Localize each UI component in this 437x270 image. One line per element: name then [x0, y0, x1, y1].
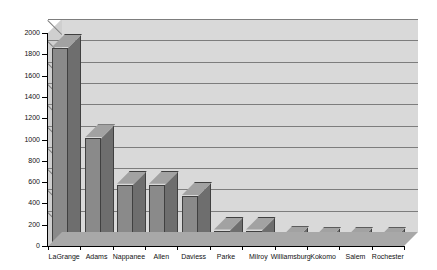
x-tick-4: [177, 246, 178, 250]
y-tick-label-1800: 1800: [2, 50, 40, 58]
x-tick-label-allen: Allen: [153, 252, 169, 261]
bar-front-face: [85, 138, 101, 246]
y-tick-200: [42, 225, 47, 226]
y-tick-label-400: 400: [2, 199, 40, 207]
bar-side-face: [68, 35, 81, 233]
gridline-2000: [62, 19, 418, 20]
x-tick-6: [242, 246, 243, 250]
gridline-400: [62, 189, 418, 190]
x-tick-2: [113, 246, 114, 250]
y-tick-label-200: 200: [2, 221, 40, 229]
y-tick-1200: [42, 118, 47, 119]
gridline-1400: [62, 83, 418, 84]
y-tick-800: [42, 161, 47, 162]
bar-front-face: [52, 48, 68, 246]
bar-side-face: [101, 125, 114, 233]
y-tick-400: [42, 203, 47, 204]
x-tick-label-salem: Salem: [346, 252, 366, 261]
x-tick-label-kokomo: Kokomo: [310, 252, 336, 261]
bar-lagrange: [52, 34, 68, 246]
y-tick-label-0: 0: [2, 242, 40, 250]
y-tick-label-1000: 1000: [2, 136, 40, 144]
bar-chart: 0200400600800100012001400160018002000 La…: [0, 0, 437, 270]
x-tick-label-parke: Parke: [217, 252, 235, 261]
gridline-1600: [62, 62, 418, 63]
y-tick-1600: [42, 76, 47, 77]
y-axis-line: [47, 33, 48, 247]
gridline-1800: [62, 40, 418, 41]
bar-adams: [85, 124, 101, 246]
x-tick-10: [372, 246, 373, 250]
y-tick-label-800: 800: [2, 157, 40, 165]
gridline-800: [62, 147, 418, 148]
x-axis-line: [47, 246, 405, 247]
x-tick-8: [307, 246, 308, 250]
x-tick-5: [210, 246, 211, 250]
y-tick-1000: [42, 140, 47, 141]
x-axis-labels: LaGrangeAdamsNappaneeAllenDaviessParkeMi…: [0, 252, 437, 268]
x-tick-9: [339, 246, 340, 250]
gridline-depth-2000: [48, 19, 62, 34]
x-tick-label-adams: Adams: [86, 252, 108, 261]
gridline-600: [62, 168, 418, 169]
x-tick-3: [145, 246, 146, 250]
chart-floor: [48, 232, 418, 246]
x-tick-1: [80, 246, 81, 250]
x-tick-label-rochester: Rochester: [372, 252, 404, 261]
x-tick-11: [404, 246, 405, 250]
gridline-200: [62, 211, 418, 212]
y-tick-label-600: 600: [2, 178, 40, 186]
y-tick-label-1200: 1200: [2, 114, 40, 122]
gridline-1000: [62, 126, 418, 127]
x-tick-label-milroy: Milroy: [249, 252, 268, 261]
y-tick-1400: [42, 97, 47, 98]
y-tick-2000: [42, 33, 47, 34]
x-tick-label-williamsburg: Williamsburg: [271, 252, 311, 261]
y-tick-600: [42, 182, 47, 183]
x-tick-label-nappanee: Nappanee: [113, 252, 145, 261]
y-axis-labels: 0200400600800100012001400160018002000: [0, 0, 40, 270]
y-tick-1800: [42, 54, 47, 55]
x-tick-label-lagrange: LaGrange: [49, 252, 80, 261]
x-tick-label-daviess: Daviess: [181, 252, 206, 261]
y-tick-label-1400: 1400: [2, 93, 40, 101]
y-tick-0: [42, 246, 47, 247]
gridline-1200: [62, 104, 418, 105]
x-tick-0: [48, 246, 49, 250]
y-tick-label-1600: 1600: [2, 72, 40, 80]
y-tick-label-2000: 2000: [2, 29, 40, 37]
x-tick-7: [275, 246, 276, 250]
